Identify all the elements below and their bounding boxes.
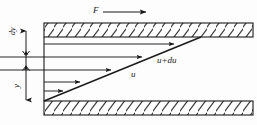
velocity-label: u: [131, 70, 136, 79]
dimension-group: [23, 31, 30, 100]
distance-label: y: [12, 84, 21, 88]
top-plate-hatch-fill: [44, 23, 253, 37]
top-plate: [44, 23, 253, 37]
velocity-profile-line: [44, 37, 201, 101]
thickness-increment-label: dy: [9, 27, 17, 35]
viscosity-diagram: F u u+du dy y: [0, 0, 257, 125]
bottom-plate-hatch-fill: [44, 101, 253, 115]
velocity-incremented-label: u+du: [157, 56, 177, 65]
force-label: F: [93, 6, 99, 15]
diagram-canvas: [0, 0, 257, 125]
bottom-plate: [44, 101, 253, 115]
